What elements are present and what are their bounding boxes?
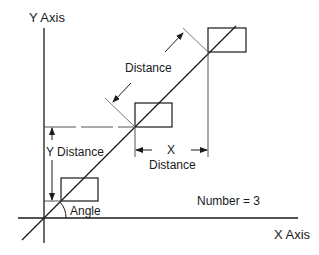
distance-label: Distance [125,62,172,74]
angle-arc [60,202,66,218]
distance-extension-upper [183,28,208,52]
x-axis-label: X Axis [274,228,310,241]
number-label: Number = 3 [197,195,260,207]
distance-arrow-upper [165,33,183,52]
distance-extension-lower [105,98,135,127]
y-distance-label: Y Distance [46,146,104,158]
item-rect-1 [61,178,98,201]
angle-label: Angle [70,205,101,217]
distance-arrow-lower [113,83,131,102]
item-rect-2 [135,103,172,127]
diagram-canvas [0,0,319,255]
y-axis-label: Y Axis [29,11,65,24]
x-distance-label-x: X [167,144,175,156]
x-distance-label-text: Distance [149,159,196,171]
